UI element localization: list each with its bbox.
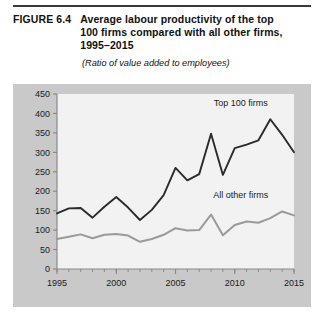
y-tick-label: 100 [35, 225, 50, 235]
y-tick-label: 50 [40, 245, 50, 255]
x-tick-label: 2010 [225, 278, 245, 288]
y-tick-label: 450 [35, 89, 50, 99]
figure-container: FIGURE 6.4 Average labour productivity o… [0, 0, 323, 318]
figure-header: FIGURE 6.4 Average labour productivity o… [13, 13, 313, 69]
line-chart: 050100150200250300350400450 199520002005… [13, 84, 311, 307]
y-tick-label: 200 [35, 186, 50, 196]
figure-subtitle: (Ratio of value added to employees) [82, 57, 313, 69]
x-tick-label: 1995 [47, 278, 67, 288]
plot-area-background [57, 94, 294, 269]
header-rule [13, 5, 311, 7]
y-tick-label: 150 [35, 206, 50, 216]
figure-number: FIGURE 6.4 [13, 13, 80, 26]
plot-background-group [57, 94, 294, 269]
chart-panel: 050100150200250300350400450 199520002005… [13, 84, 311, 307]
y-axis-labels: 050100150200250300350400450 [35, 89, 50, 274]
series-annotation: All other firms [213, 190, 269, 200]
x-tick-label: 2005 [165, 278, 185, 288]
y-tick-label: 350 [35, 128, 50, 138]
x-tick-label: 2000 [106, 278, 126, 288]
x-tick-label: 2015 [284, 278, 304, 288]
series-annotation: Top 100 firms [214, 98, 269, 108]
y-tick-label: 0 [45, 264, 50, 274]
title-row: FIGURE 6.4 Average labour productivity o… [13, 13, 313, 53]
y-tick-label: 400 [35, 109, 50, 119]
y-tick-label: 300 [35, 148, 50, 158]
figure-title: Average labour productivity of the top 1… [80, 13, 292, 53]
y-tick-label: 250 [35, 167, 50, 177]
x-axis-labels: 19952000200520102015 [47, 278, 304, 288]
chart-svg: 050100150200250300350400450 199520002005… [13, 84, 311, 307]
